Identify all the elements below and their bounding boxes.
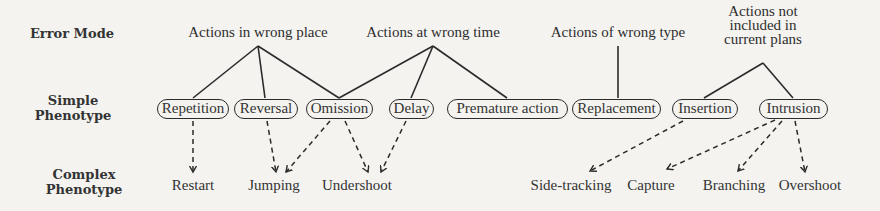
error-mode-wrong-type: Actions of wrong type <box>551 25 686 39</box>
row-label-line: Phenotype <box>46 182 123 197</box>
dashed-arrow-omission-to-jumping <box>286 121 330 172</box>
solid-edge-wrong_time-to-premature_action <box>433 46 507 98</box>
row-label-error-mode: Error Mode <box>30 26 114 41</box>
row-label-simple-phenotype: Simple Phenotype <box>35 93 112 123</box>
complex-phenotype-branching: Branching <box>703 177 765 193</box>
row-label-line: Phenotype <box>35 108 112 123</box>
solid-connectors <box>193 46 793 98</box>
row-label-line: Complex <box>46 167 123 182</box>
error-mode-text: Actions in wrong place <box>188 25 328 39</box>
simple-phenotype-delay: Delay <box>389 99 434 119</box>
error-mode-text: current plans <box>724 32 802 46</box>
dashed-arrow-insertion-to-side_tracking <box>590 121 683 171</box>
solid-edge-not_included-to-insertion <box>704 63 763 98</box>
error-mode-text: Actions at wrong time <box>366 25 500 39</box>
error-mode-text: Actions of wrong type <box>551 25 686 39</box>
complex-phenotype-overshoot: Overshoot <box>779 177 842 193</box>
dashed-arrow-reversal-to-jumping <box>267 121 276 172</box>
solid-edge-wrong_time-to-delay <box>411 46 433 98</box>
error-mode-text: Actions not <box>724 4 802 18</box>
simple-phenotype-insertion: Insertion <box>672 99 738 119</box>
error-mode-not-included: Actions not included in current plans <box>724 4 802 46</box>
solid-edge-wrong_place-to-omission <box>258 46 339 98</box>
row-label-line: Simple <box>35 93 112 108</box>
solid-edge-wrong_place-to-repetition <box>193 46 258 98</box>
simple-phenotype-intrusion: Intrusion <box>759 99 828 119</box>
simple-phenotype-omission: Omission <box>306 99 373 119</box>
complex-phenotype-side-tracking: Side-tracking <box>531 177 612 193</box>
error-mode-text: included in <box>724 18 802 32</box>
complex-phenotype-undershoot: Undershoot <box>322 177 392 193</box>
simple-phenotype-repetition: Repetition <box>157 99 229 119</box>
row-label-complex-phenotype: Complex Phenotype <box>46 167 123 197</box>
error-mode-wrong-place: Actions in wrong place <box>188 25 328 39</box>
complex-phenotype-capture: Capture <box>627 177 674 193</box>
error-taxonomy-diagram: Error Mode Simple Phenotype Complex Phen… <box>0 0 880 211</box>
simple-phenotype-replacement: Replacement <box>572 99 661 119</box>
dashed-arrow-intrusion-to-overshoot <box>795 121 805 172</box>
solid-edge-not_included-to-intrusion <box>763 63 793 98</box>
dashed-arrow-intrusion-to-capture <box>667 120 775 169</box>
row-label-text: Error Mode <box>30 26 114 41</box>
simple-phenotype-reversal: Reversal <box>234 99 298 119</box>
dashed-arrow-delay-to-undershoot <box>381 121 406 172</box>
dashed-arrow-intrusion-to-branching <box>738 121 782 171</box>
complex-phenotype-restart: Restart <box>172 177 215 193</box>
dashed-arrow-connectors <box>193 120 805 172</box>
solid-edge-wrong_time-to-omission <box>339 46 433 98</box>
dashed-arrow-omission-to-undershoot <box>345 121 368 172</box>
error-mode-wrong-time: Actions at wrong time <box>366 25 500 39</box>
solid-edge-wrong_place-to-reversal <box>258 46 265 98</box>
simple-phenotype-premature-action: Premature action <box>447 99 568 119</box>
complex-phenotype-jumping: Jumping <box>248 177 300 193</box>
